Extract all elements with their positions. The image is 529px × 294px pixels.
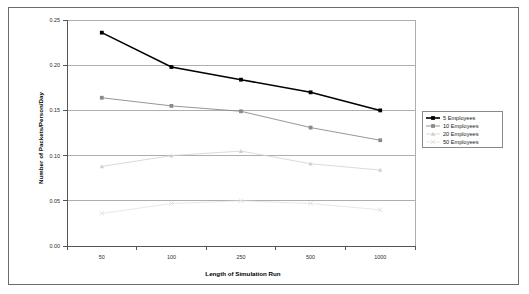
y-tick-label: 0.15 [50, 107, 61, 113]
x-tick-label: 250 [237, 254, 246, 260]
series-line [102, 151, 380, 170]
legend-item-label: 10 Employees [443, 123, 479, 129]
data-point-marker [309, 126, 313, 130]
figure-frame: 0.000.050.100.150.200.25 501002505001000… [8, 7, 519, 285]
x-tick-label: 100 [167, 254, 176, 260]
legend-item-label: 50 Employees [443, 139, 479, 145]
data-point-marker [239, 109, 243, 113]
data-point-marker [378, 138, 382, 142]
series-line [102, 201, 380, 214]
data-point-marker [170, 65, 174, 69]
line-chart: 0.000.050.100.150.200.25 501002505001000… [9, 8, 520, 286]
y-axis-ticks: 0.000.050.100.150.200.25 [50, 17, 68, 249]
series-line [102, 33, 380, 111]
y-tick-label: 0.25 [50, 17, 61, 23]
legend-item-label: 20 Employees [443, 131, 479, 137]
axes [67, 20, 415, 246]
legend-item-label: 5 Employees [443, 115, 476, 121]
y-tick-label: 0.10 [50, 153, 61, 159]
series-1 [100, 96, 382, 142]
x-axis-ticks: 501002505001000 [67, 246, 415, 260]
data-point-marker [309, 90, 313, 94]
y-tick-label: 0.00 [50, 243, 61, 249]
x-tick-label: 1000 [374, 254, 386, 260]
chart-legend[interactable]: 5 Employees10 Employees20 Employees50 Em… [422, 111, 502, 147]
y-tick-label: 0.20 [50, 62, 61, 68]
data-point-marker [100, 31, 104, 35]
chart-area: 0.000.050.100.150.200.25 501002505001000… [9, 8, 520, 286]
data-point-marker [431, 124, 435, 128]
data-point-marker [239, 78, 243, 82]
data-point-marker [431, 116, 435, 120]
series-line [102, 98, 380, 140]
x-tick-label: 50 [99, 254, 105, 260]
data-point-marker [170, 104, 174, 108]
data-point-marker [378, 109, 382, 113]
data-point-marker [100, 96, 104, 100]
data-series [100, 31, 383, 216]
y-tick-label: 0.05 [50, 198, 61, 204]
gridlines [67, 20, 415, 246]
y-axis-title: Number of Packets/Person/Day [37, 92, 44, 184]
series-2 [100, 149, 383, 172]
series-0 [100, 31, 382, 113]
x-tick-label: 500 [306, 254, 315, 260]
x-axis-title: Length of Simulation Run [205, 270, 280, 277]
